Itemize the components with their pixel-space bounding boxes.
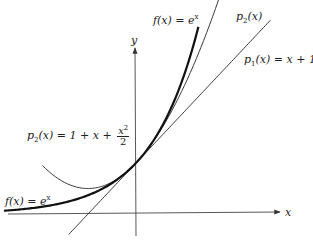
label-p2-left: p2(x) = 1 + x + x2 2	[27, 125, 129, 147]
y-axis	[135, 48, 136, 236]
fraction-x2-over-2: x2 2	[117, 125, 129, 147]
label-f-left: f(x) = ex	[5, 195, 51, 207]
y-axis-label: y	[131, 35, 137, 46]
exp-curve	[4, 27, 198, 211]
x-axis-label: x	[285, 207, 291, 218]
taylor-approximation-diagram	[0, 0, 313, 247]
label-p2-top: p2(x)	[236, 11, 262, 25]
label-p1-top: p1(x) = x + 1	[244, 54, 313, 68]
label-f-top: f(x) = ex	[153, 14, 199, 26]
x-axis	[8, 212, 280, 214]
p2-quadratic-curve	[42, 0, 220, 188]
